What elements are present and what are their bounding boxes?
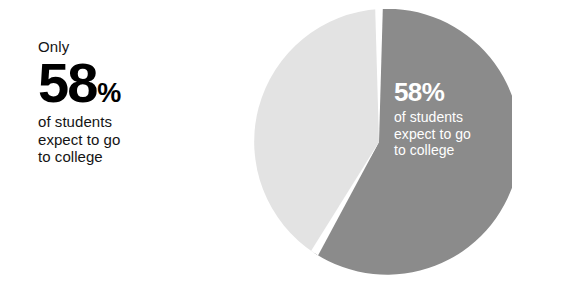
pie-slice-label-line-3: to college [394,142,514,159]
callout-percent-symbol: % [97,80,121,107]
callout-description-line-3: to college [38,148,208,166]
pie-slice-label-description: of students expect to go to college [394,109,514,159]
pie-slice-label-line-1: of students [394,109,514,126]
callout-description-line-1: of students [38,113,208,131]
pie-slice-label-line-2: expect to go [394,126,514,143]
callout-description-line-2: expect to go [38,131,208,149]
pie-slice-label-value: 58% [394,78,514,106]
callout-description: of students expect to go to college [38,113,208,166]
callout-block: Only 58 % of students expect to go to co… [38,38,208,166]
pie-slice-label: 58% of students expect to go to college [394,78,514,159]
callout-number: 58 [38,56,96,110]
callout-figure: 58 % [38,56,208,110]
